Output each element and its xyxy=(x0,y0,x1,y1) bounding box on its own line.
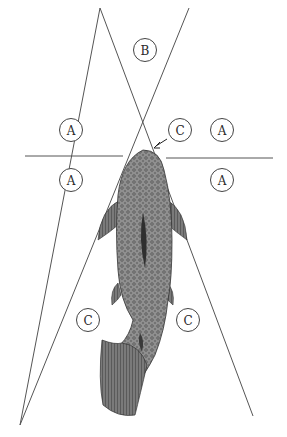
label-c-lower-right-text: C xyxy=(183,314,192,328)
label-a-lower-left: A xyxy=(60,169,83,192)
label-a-upper-right: A xyxy=(211,119,234,142)
label-a-upper-right-text: A xyxy=(217,124,227,138)
label-b-text: B xyxy=(141,44,150,58)
pointer-arrow xyxy=(154,139,167,148)
label-a-upper-left-text: A xyxy=(66,124,76,138)
label-a-upper-left: A xyxy=(60,119,83,142)
label-c-lower-left: C xyxy=(77,309,100,332)
label-c-lower-left-text: C xyxy=(83,314,92,328)
left-pelvic-fin xyxy=(112,283,121,305)
label-a-lower-right-text: A xyxy=(217,174,227,188)
label-c-arrow: C xyxy=(169,119,192,142)
label-a-lower-left-text: A xyxy=(66,174,76,188)
fish-illustration xyxy=(98,150,187,416)
left-diagonal-line xyxy=(20,8,100,425)
label-c-arrow-text: C xyxy=(175,124,184,138)
diagram-canvas: B A A A A C C C xyxy=(0,0,287,437)
fish-zone-diagram: B A A A A C C C xyxy=(0,0,287,437)
label-a-lower-right: A xyxy=(211,169,234,192)
label-c-lower-right: C xyxy=(177,309,200,332)
label-b: B xyxy=(134,39,157,62)
